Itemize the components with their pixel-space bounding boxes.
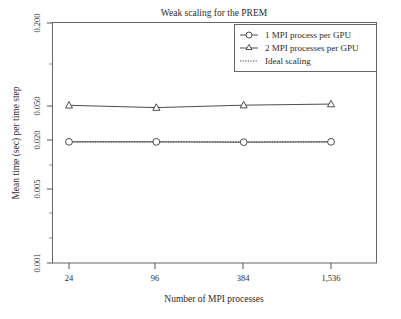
legend-label-1: 2 MPI processes per GPU xyxy=(265,43,359,53)
y-tick-label-2: 0.020 xyxy=(32,130,42,149)
x-tick-label-2: 384 xyxy=(237,273,251,283)
y-tick-label-0: 0.200 xyxy=(32,13,42,32)
chart-figure: Weak scaling for the PREM 0.200 0.050 0.… xyxy=(0,0,401,319)
data-point-marker xyxy=(153,138,160,145)
y-axis-title: Mean time (sec) per time step xyxy=(11,86,22,199)
circle-marker-icon xyxy=(246,32,252,38)
chart-legend: 1 MPI process per GPU 2 MPI processes pe… xyxy=(235,25,377,72)
legend-label-2: Ideal scaling xyxy=(265,56,311,66)
x-tick-label-0: 24 xyxy=(65,273,74,283)
y-tick-label-3: 0.005 xyxy=(32,179,42,198)
x-axis-title: Number of MPI processes xyxy=(164,294,264,304)
y-tick-label-4: 0.001 xyxy=(32,253,42,272)
data-point-marker xyxy=(240,139,247,146)
chart-title: Weak scaling for the PREM xyxy=(161,8,268,18)
y-tick-label-1: 0.050 xyxy=(32,96,42,115)
chart-svg: Weak scaling for the PREM 0.200 0.050 0.… xyxy=(0,0,401,319)
legend-label-0: 1 MPI process per GPU xyxy=(265,30,351,40)
x-tick-label-1: 96 xyxy=(151,273,160,283)
x-tick-label-3: 1,536 xyxy=(321,273,340,283)
data-point-marker xyxy=(328,138,335,145)
data-point-marker xyxy=(66,138,73,145)
